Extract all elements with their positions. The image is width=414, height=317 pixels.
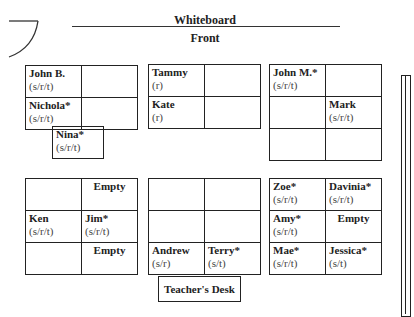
seat xyxy=(149,211,205,243)
seat xyxy=(149,179,205,211)
student-services: (s/r/t) xyxy=(273,257,322,270)
student-services: (s/t) xyxy=(329,257,378,270)
desk-row: John M.*(s/r/t) xyxy=(270,65,382,97)
seat xyxy=(326,65,382,97)
student-name: Mae* xyxy=(273,244,322,257)
seat: John M.*(s/r/t) xyxy=(270,65,326,97)
desk-group-2: Tammy(r)Kate(r) xyxy=(148,64,261,129)
desk-group-6: Zoe*(s/r/t)Davinia*(s/r/t)Amy*(s/r/t)Emp… xyxy=(269,178,382,275)
student-services: (s/r/t) xyxy=(329,111,378,124)
seat xyxy=(326,129,382,161)
seat xyxy=(270,97,326,129)
seat: Empty xyxy=(82,243,138,275)
seat xyxy=(82,66,138,98)
seat xyxy=(26,179,82,211)
student-services: (s/r/t) xyxy=(273,193,322,206)
desk-row: Mae*(s/r/t)Jessica*(s/t) xyxy=(270,243,382,275)
desk-row: Empty xyxy=(26,243,138,275)
seat: Jim*(s/r/t) xyxy=(82,211,138,243)
seat: Davinia*(s/r/t) xyxy=(326,179,382,211)
seat: Mae*(s/r/t) xyxy=(270,243,326,275)
student-services: (r) xyxy=(152,79,201,92)
desk-row: Tammy(r) xyxy=(149,65,261,97)
student-name: Tammy xyxy=(152,66,201,79)
seat xyxy=(82,98,138,130)
seat: Amy*(s/r/t) xyxy=(270,211,326,243)
student-services: (s/r/t) xyxy=(329,193,378,206)
student-services: (s/r/t) xyxy=(56,141,100,154)
desk-row xyxy=(149,211,261,243)
seat: Jessica*(s/t) xyxy=(326,243,382,275)
desk-row: Nichola*(s/r/t) xyxy=(26,98,138,130)
student-name: Jessica* xyxy=(329,244,378,257)
seat: Ken(s/r/t) xyxy=(26,211,82,243)
seat: Mark(s/r/t) xyxy=(326,97,382,129)
seat: Kate(r) xyxy=(149,97,205,129)
teacher-desk: Teacher's Desk xyxy=(158,276,241,302)
student-services: (s/r/t) xyxy=(29,112,78,125)
front-label: Front xyxy=(150,31,260,46)
empty-seat-label: Empty xyxy=(329,212,378,225)
seat: Empty xyxy=(326,211,382,243)
student-name: John B. xyxy=(29,67,78,80)
student-name: John M.* xyxy=(273,66,322,79)
seat: Terry*(s/t) xyxy=(205,243,261,275)
student-name: Kate xyxy=(152,98,201,111)
side-wall xyxy=(401,75,411,317)
whiteboard-label: Whiteboard xyxy=(150,13,260,28)
desk-group-1: John B.(s/r/t)Nichola*(s/r/t) xyxy=(25,65,138,130)
student-name: Amy* xyxy=(273,212,322,225)
extra-seat: Nina* (s/r/t) xyxy=(52,126,104,159)
student-name: Nina* xyxy=(56,128,100,141)
desk-row: Mark(s/r/t) xyxy=(270,97,382,129)
empty-seat-label: Empty xyxy=(85,244,134,257)
student-name: Jim* xyxy=(85,212,134,225)
student-services: (s/r) xyxy=(152,257,201,270)
seat: John B.(s/r/t) xyxy=(26,66,82,98)
student-services: (s/r/t) xyxy=(85,225,134,238)
student-name: Mark xyxy=(329,98,378,111)
seat: Zoe*(s/r/t) xyxy=(270,179,326,211)
student-services: (s/r/t) xyxy=(273,79,322,92)
desk-row: Empty xyxy=(26,179,138,211)
desk-row: Ken(s/r/t)Jim*(s/r/t) xyxy=(26,211,138,243)
desk-group-5: Andrew(s/r)Terry*(s/t) xyxy=(148,178,261,275)
student-services: (s/r/t) xyxy=(273,225,322,238)
desk-row: Amy*(s/r/t)Empty xyxy=(270,211,382,243)
student-services: (r) xyxy=(152,111,201,124)
side-wall-inner-line xyxy=(405,76,406,314)
desk-row xyxy=(149,179,261,211)
empty-seat-label: Empty xyxy=(85,180,134,193)
student-name: Andrew xyxy=(152,244,201,257)
student-name: Davinia* xyxy=(329,180,378,193)
desk-row xyxy=(270,129,382,161)
door-icon xyxy=(0,10,40,60)
student-name: Nichola* xyxy=(29,99,78,112)
student-name: Zoe* xyxy=(273,180,322,193)
seat xyxy=(205,179,261,211)
desk-group-3: John M.*(s/r/t)Mark(s/r/t) xyxy=(269,64,382,161)
student-services: (s/t) xyxy=(208,257,257,270)
seat xyxy=(205,97,261,129)
seat: Tammy(r) xyxy=(149,65,205,97)
student-services: (s/r/t) xyxy=(29,80,78,93)
student-name: Ken xyxy=(29,212,78,225)
desk-row: Andrew(s/r)Terry*(s/t) xyxy=(149,243,261,275)
seat xyxy=(205,211,261,243)
desk-row: Zoe*(s/r/t)Davinia*(s/r/t) xyxy=(270,179,382,211)
seat: Empty xyxy=(82,179,138,211)
seat xyxy=(205,65,261,97)
seat: Andrew(s/r) xyxy=(149,243,205,275)
seat: Nichola*(s/r/t) xyxy=(26,98,82,130)
student-services: (s/r/t) xyxy=(29,225,78,238)
desk-row: Kate(r) xyxy=(149,97,261,129)
seat xyxy=(270,129,326,161)
student-name: Terry* xyxy=(208,244,257,257)
desk-group-4: EmptyKen(s/r/t)Jim*(s/r/t)Empty xyxy=(25,178,138,275)
desk-row: John B.(s/r/t) xyxy=(26,66,138,98)
seat xyxy=(26,243,82,275)
